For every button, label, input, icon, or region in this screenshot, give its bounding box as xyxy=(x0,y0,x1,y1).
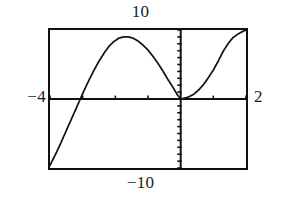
window-ymin-label: −10 xyxy=(0,174,281,191)
plot-canvas xyxy=(50,30,246,168)
calculator-graph-figure: 10 −4 2 −10 xyxy=(0,0,281,197)
window-ymax-label: 10 xyxy=(0,3,281,20)
window-xmin-label: −4 xyxy=(10,88,46,105)
window-xmax-label: 2 xyxy=(254,88,278,105)
plot-frame xyxy=(48,28,248,170)
